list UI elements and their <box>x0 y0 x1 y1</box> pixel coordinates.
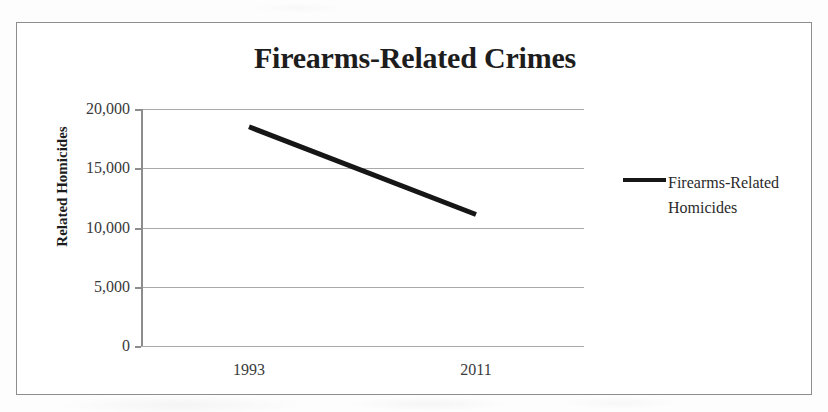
y-tick-label-10000: 10,000 <box>86 219 130 237</box>
chart-title: Firearms-Related Crimes <box>17 41 813 75</box>
gridline-0 <box>141 346 584 347</box>
chart-legend: Firearms-Related Homicides <box>623 170 798 220</box>
x-tick-label-2011: 2011 <box>460 361 491 379</box>
y-tick-label-15000: 15,000 <box>86 159 130 177</box>
legend-line-swatch-icon <box>623 178 666 182</box>
chart-figure-frame: Firearms-Related Crimes Related Homicide… <box>16 22 812 395</box>
legend-label-firearms-related-homicides: Firearms-Related Homicides <box>666 170 798 220</box>
y-tick-label-0: 0 <box>122 337 130 355</box>
plot-area: 0 5,000 10,000 15,000 20,000 1993 2011 <box>141 109 584 346</box>
chart-screenshot: Firearms-Related Crimes Related Homicide… <box>0 0 828 412</box>
series-firearms-related-homicides <box>141 109 584 346</box>
y-axis-title: Related Homicides <box>54 97 71 277</box>
y-tick-label-20000: 20,000 <box>86 100 130 118</box>
x-tick-label-1993: 1993 <box>233 361 265 379</box>
y-tick-0 <box>135 346 141 348</box>
y-tick-label-5000: 5,000 <box>94 278 130 296</box>
